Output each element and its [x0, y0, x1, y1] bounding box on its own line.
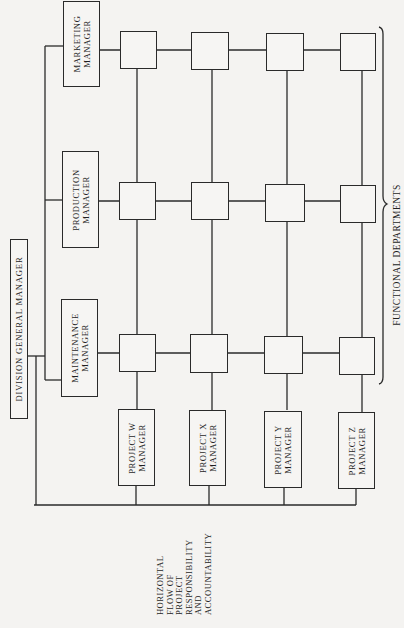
maintenance-manager-label-line2: MANAGER — [80, 313, 90, 383]
project-z-label-line2: MANAGER — [357, 426, 367, 475]
grid-cell-production-x — [191, 182, 229, 220]
division-general-manager-label: DIVISION GENERAL MANAGER — [14, 257, 24, 402]
production-manager-label-line1: PRODUCTION — [71, 169, 81, 230]
grid-cell-maintenance-w — [119, 334, 156, 372]
functional-departments-label: FUNCTIONAL DEPARTMENTS — [392, 184, 402, 325]
grid-cell-maintenance-y — [264, 336, 303, 374]
project-y-manager-box: PROJECT Y MANAGER — [264, 411, 302, 488]
grid-cell-marketing-w — [120, 31, 157, 69]
horizontal-flow-label: HORIZONTAL FLOW OF PROJECT RESPONSIBILIT… — [156, 533, 214, 615]
project-x-label-line1: PROJECT X — [198, 423, 208, 473]
grid-cell-marketing-z — [340, 33, 376, 71]
maintenance-manager-label-line1: MAINTENANCE — [70, 313, 80, 383]
grid-cell-production-z — [340, 185, 376, 223]
marketing-manager-label-line1: MARKETING — [72, 16, 82, 73]
production-manager-label-line2: MANAGER — [81, 169, 91, 230]
project-y-label-line1: PROJECT Y — [273, 425, 283, 475]
project-x-manager-box: PROJECT X MANAGER — [189, 410, 226, 486]
project-w-label-line2: MANAGER — [137, 422, 147, 474]
project-z-manager-box: PROJECT Z MANAGER — [338, 412, 375, 489]
grid-cell-marketing-y — [266, 33, 304, 71]
production-manager-box: PRODUCTION MANAGER — [62, 151, 99, 248]
project-z-label-line1: PROJECT Z — [347, 426, 357, 475]
grid-cell-production-w — [119, 182, 156, 220]
marketing-manager-label-line2: MANAGER — [82, 16, 92, 73]
matrix-organization-diagram: DIVISION GENERAL MANAGER MARKETING MANAG… — [0, 0, 404, 628]
grid-cell-production-y — [265, 184, 305, 222]
project-w-label-line1: PROJECT W — [127, 422, 137, 474]
project-y-label-line2: MANAGER — [283, 425, 293, 475]
marketing-manager-box: MARKETING MANAGER — [63, 1, 100, 87]
division-general-manager-box: DIVISION GENERAL MANAGER — [10, 239, 28, 419]
maintenance-manager-box: MAINTENANCE MANAGER — [61, 299, 98, 397]
grid-cell-maintenance-x — [190, 334, 228, 373]
project-x-label-line2: MANAGER — [208, 423, 218, 473]
horizontal-flow-line6: ACCOUNTABILITY — [204, 533, 214, 615]
project-w-manager-box: PROJECT W MANAGER — [118, 409, 155, 486]
grid-cell-marketing-x — [191, 32, 229, 70]
grid-cell-maintenance-z — [339, 337, 375, 375]
